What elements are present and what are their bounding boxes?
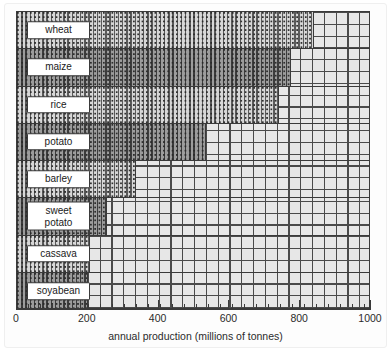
x-axis-tick-label: 400 — [149, 312, 167, 324]
bar-label-potato: potato — [27, 133, 90, 151]
bar-row: wheat — [17, 12, 369, 49]
x-axis-minor-tick — [148, 304, 149, 310]
bar-row: potato — [17, 124, 369, 161]
x-axis-tick-label: 1000 — [358, 312, 381, 324]
bar-label-barley: barley — [27, 170, 90, 188]
bar-label-wheat: wheat — [27, 21, 90, 39]
x-axis-minor-tick — [112, 304, 113, 310]
x-axis-minor-tick — [40, 304, 41, 310]
bar-row: sweet potato — [17, 198, 369, 235]
x-axis-minor-tick — [304, 304, 305, 310]
x-axis-minor-tick — [208, 304, 209, 310]
x-axis-tick — [158, 300, 159, 310]
x-axis-minor-tick — [268, 304, 269, 310]
x-axis-minor-tick — [328, 304, 329, 310]
x-axis-minor-tick — [160, 304, 161, 310]
x-axis-minor-tick — [292, 304, 293, 310]
x-axis-tick-label: 0 — [13, 312, 19, 324]
x-axis-minor-tick — [196, 304, 197, 310]
x-axis-tick-label: 200 — [78, 312, 96, 324]
x-axis-tick — [370, 300, 371, 310]
x-axis-minor-tick — [340, 304, 341, 310]
x-axis-minor-tick — [124, 304, 125, 310]
bar-label-cassava: cassava — [27, 245, 90, 263]
bar-row: cassava — [17, 236, 369, 273]
x-axis-tick-label: 600 — [220, 312, 238, 324]
x-axis-title: annual production (millions of tonnes) — [0, 330, 391, 342]
x-axis-tick — [228, 300, 229, 310]
x-axis-minor-tick — [136, 304, 137, 310]
bar-row: rice — [17, 87, 369, 124]
bar-row: maize — [17, 49, 369, 86]
x-axis-tick — [16, 300, 17, 310]
x-axis-minor-tick — [88, 304, 89, 310]
x-axis-tick — [299, 300, 300, 310]
x-axis-minor-tick — [256, 304, 257, 310]
x-axis-minor-tick — [184, 304, 185, 310]
bar-chart-figure: wheatmaizericepotatobarleysweet potatoca… — [0, 0, 391, 354]
bar-label-sweet-potato: sweet potato — [27, 202, 90, 231]
bar-label-soyabean: soyabean — [27, 283, 90, 301]
x-axis-line — [16, 309, 371, 310]
x-axis-tick-label: 800 — [290, 312, 308, 324]
x-axis-minor-tick — [220, 304, 221, 310]
x-axis-minor-tick — [244, 304, 245, 310]
bar-rows: wheatmaizericepotatobarleysweet potatoca… — [17, 12, 369, 308]
bar-label-rice: rice — [27, 96, 90, 114]
x-axis-minor-tick — [64, 304, 65, 310]
x-axis-minor-tick — [100, 304, 101, 310]
bar-label-maize: maize — [27, 59, 90, 77]
x-axis-minor-tick — [364, 304, 365, 310]
x-axis-minor-tick — [28, 304, 29, 310]
plot-area: wheatmaizericepotatobarleysweet potatoca… — [16, 11, 370, 309]
x-axis-minor-tick — [316, 304, 317, 310]
x-axis-minor-tick — [280, 304, 281, 310]
x-axis-tick — [87, 300, 88, 310]
x-axis-minor-tick — [232, 304, 233, 310]
x-axis-minor-tick — [172, 304, 173, 310]
bar-row: barley — [17, 161, 369, 198]
x-axis-minor-tick — [76, 304, 77, 310]
x-axis-minor-tick — [352, 304, 353, 310]
x-axis-minor-tick — [52, 304, 53, 310]
